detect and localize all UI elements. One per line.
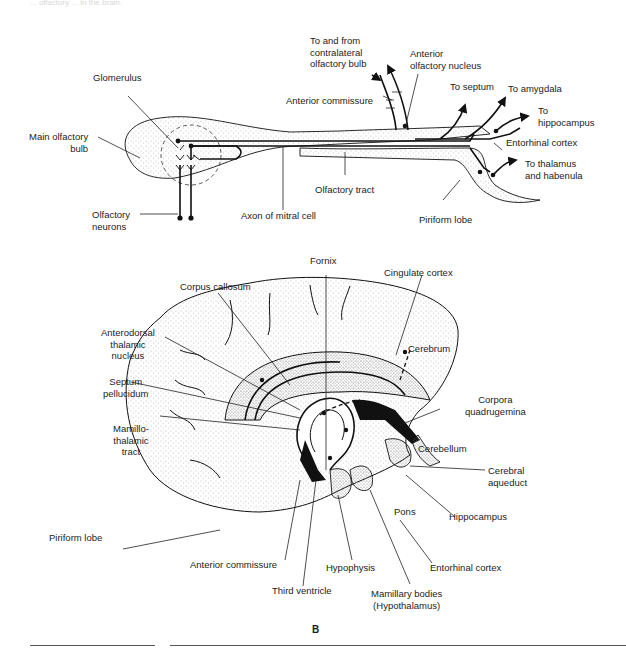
label-anterior-commissure-b: Anterior commissure — [190, 559, 277, 571]
label-anterior-olfactory-nucleus: Anterior olfactory nucleus — [410, 48, 481, 71]
label-entorhinal-cortex-b: Entorhinal cortex — [430, 562, 501, 574]
label-contralateral-bulb: To and from contralateral olfactory bulb — [310, 35, 367, 70]
label-hypophysis: Hypophysis — [326, 562, 375, 574]
label-mamillary-bodies: Mamillary bodies (Hypothalamus) — [371, 588, 442, 611]
label-cerebrum: Cerebrum — [408, 343, 450, 355]
label-axon-of-mitral-cell: Axon of mitral cell — [241, 210, 316, 222]
label-pons: Pons — [394, 506, 416, 518]
label-olfactory-neurons: Olfactory neurons — [92, 209, 130, 232]
footer-rule-right — [170, 645, 626, 646]
label-third-ventricle: Third ventricle — [272, 585, 332, 597]
label-cerebral-aqueduct: Cerebral aqueduct — [488, 465, 527, 488]
label-to-hippocampus: To hippocampus — [538, 105, 595, 128]
label-hippocampus: Hippocampus — [449, 511, 507, 523]
label-anterior-commissure-a: Anterior commissure — [286, 95, 373, 107]
label-anterodorsal-thalamic-nucleus: Anterodorsal thalamic nucleus — [101, 327, 155, 362]
label-cerebellum: Cerebellum — [418, 443, 467, 455]
label-fornix: Fornix — [310, 255, 336, 267]
label-cingulate-cortex: Cingulate cortex — [384, 267, 453, 279]
label-piriform-lobe-a: Piriform lobe — [419, 214, 472, 226]
label-mamillothalamic-tract: Mamillo- thalamic tract — [113, 423, 149, 458]
label-corpus-callosum: Corpus callosum — [180, 281, 251, 293]
footer-rule-left — [30, 645, 155, 646]
label-septum-pellucidum: Septum pellucidum — [103, 376, 148, 399]
label-to-septum: To septum — [450, 81, 494, 93]
label-olfactory-tract: Olfactory tract — [315, 184, 374, 196]
label-main-olfactory-bulb: Main olfactory bulb — [29, 131, 88, 154]
label-piriform-lobe-b: Piriform lobe — [49, 532, 102, 544]
label-to-thalamus-habenula: To thalamus and habenula — [525, 158, 583, 181]
label-glomerulus: Glomerulus — [93, 72, 142, 84]
label-to-amygdala: To amygdala — [508, 83, 562, 95]
label-entorhinal-cortex-a: Entorhinal cortex — [506, 137, 577, 149]
figure-letter-b: B — [312, 624, 319, 635]
label-corpora-quadrugemina: Corpora quadrugemina — [465, 394, 526, 417]
